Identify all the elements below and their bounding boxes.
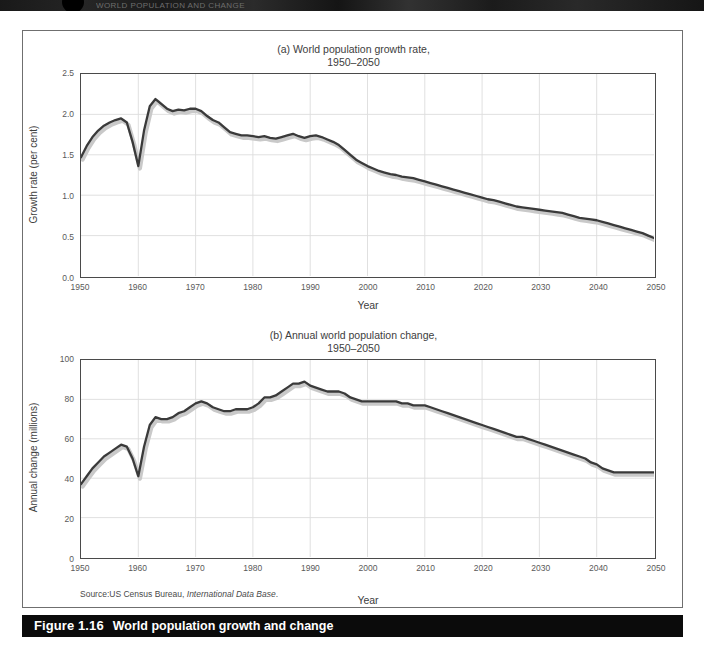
chart-a-x-tick: 2050	[636, 282, 676, 292]
chart-a-x-tick: 1960	[118, 282, 158, 292]
chart-a-x-tick: 2030	[521, 282, 561, 292]
chart-a-x-axis-label: Year	[80, 299, 656, 311]
chart-b-title: (b) Annual world population change,	[23, 329, 684, 342]
chart-b-x-tick: 1990	[290, 563, 330, 573]
chart-a-gridlines	[81, 74, 654, 276]
chart-b-x-tick: 2010	[406, 563, 446, 573]
chart-b-x-tick: 1950	[60, 563, 100, 573]
chart-a-x-tick: 1970	[175, 282, 215, 292]
chart-a-x-tick: 2010	[406, 282, 446, 292]
source-prefix: Source:US Census Bureau,	[80, 589, 187, 599]
chart-b-gridlines	[81, 360, 654, 557]
chart-panel-growth-rate: (a) World population growth rate, 1950–2…	[23, 31, 684, 321]
chart-a-x-tick: 2040	[578, 282, 618, 292]
chart-b-y-tick: 20	[38, 514, 74, 524]
source-suffix: .	[276, 589, 278, 599]
chart-a-x-tick: 1980	[233, 282, 273, 292]
top-strip-bullet-icon	[62, 0, 84, 11]
source-publication: International Data Base	[187, 589, 276, 599]
chart-a-y-tick: 1.5	[38, 150, 74, 160]
chart-a-x-tick: 2000	[348, 282, 388, 292]
chart-a-y-tick: 0.5	[38, 232, 74, 242]
chart-b-x-tick: 1970	[175, 563, 215, 573]
chart-a-y-tick: 1.0	[38, 191, 74, 201]
chart-a-plot-area	[80, 73, 656, 278]
chart-a-y-tick: 2.5	[38, 68, 74, 78]
chart-b-y-tick: 40	[38, 474, 74, 484]
chart-b-y-tick: 80	[38, 394, 74, 404]
chart-b-x-tick: 2030	[521, 563, 561, 573]
chart-b-x-tick: 2000	[348, 563, 388, 573]
top-strip-title: WORLD POPULATION AND CHANGE	[96, 0, 245, 11]
chart-b-plot-area	[80, 359, 656, 559]
figure-caption-text: World population growth and change	[113, 619, 334, 633]
source-note: Source:US Census Bureau, International D…	[80, 589, 278, 599]
chart-a-svg	[81, 74, 654, 276]
figure-frame: population decline the rate of growth in…	[22, 30, 683, 608]
chart-a-x-tick: 1990	[290, 282, 330, 292]
chart-a-y-axis-label: Growth rate (per cent)	[28, 72, 39, 277]
chart-b-svg	[81, 360, 654, 557]
figure-caption-bar: Figure 1.16World population growth and c…	[22, 615, 683, 637]
chart-b-y-axis-label: Annual change (millions)	[28, 358, 39, 558]
chart-a-x-tick: 2020	[463, 282, 503, 292]
chart-b-x-tick: 2020	[463, 563, 503, 573]
chart-panel-annual-change: (b) Annual world population change, 1950…	[23, 321, 684, 609]
figure-caption-number: Figure 1.16	[34, 618, 104, 633]
chart-b-x-tick: 1980	[233, 563, 273, 573]
chart-b-x-tick: 2040	[578, 563, 618, 573]
chart-b-x-tick: 1960	[118, 563, 158, 573]
chart-b-x-tick: 2050	[636, 563, 676, 573]
chart-a-subtitle: 1950–2050	[23, 56, 684, 69]
figure-caption-inner: Figure 1.16World population growth and c…	[34, 615, 333, 637]
page-top-strip: WORLD POPULATION AND CHANGE	[0, 0, 704, 11]
chart-a-y-tick: 2.0	[38, 109, 74, 119]
chart-b-y-tick: 60	[38, 434, 74, 444]
chart-b-y-tick: 100	[38, 354, 74, 364]
chart-b-subtitle: 1950–2050	[23, 342, 684, 355]
chart-a-line-shadow	[83, 101, 654, 240]
chart-a-x-tick: 1950	[60, 282, 100, 292]
chart-a-title: (a) World population growth rate,	[23, 43, 684, 56]
